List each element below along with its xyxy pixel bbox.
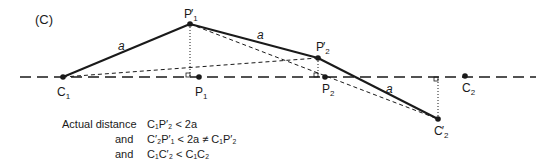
point-c2prime bbox=[435, 116, 441, 122]
label-p1: P1 bbox=[195, 85, 208, 101]
segment-p2prime-c2prime bbox=[318, 58, 438, 119]
equation-row-1-lead: Actual distance bbox=[62, 118, 137, 130]
label-c1: C1 bbox=[57, 85, 71, 101]
point-p2prime bbox=[315, 55, 321, 61]
segment-label-2: a bbox=[257, 28, 264, 42]
point-c2 bbox=[462, 73, 468, 79]
label-p1prime: P′1 bbox=[184, 7, 198, 23]
equation-row-1-expr: C₁P′₂ < 2a bbox=[147, 118, 197, 130]
point-p1prime bbox=[187, 21, 193, 27]
equation-row-3-lead: and bbox=[115, 148, 133, 160]
panel-label: (C) bbox=[35, 12, 53, 27]
label-c2: C2 bbox=[462, 81, 476, 97]
point-c1 bbox=[60, 74, 66, 80]
label-c2prime: C′2 bbox=[434, 124, 449, 140]
equation-row-2-expr: C′₂P′₁ < 2a ≠ C₁P′₂ bbox=[147, 133, 237, 145]
segment-label-1: a bbox=[118, 39, 125, 53]
equation-row-2-lead: and bbox=[115, 133, 133, 145]
point-p2 bbox=[322, 74, 328, 80]
segment-label-3: a bbox=[386, 82, 393, 96]
label-p2: P2 bbox=[322, 82, 335, 98]
point-p1 bbox=[196, 74, 202, 80]
segment-p1prime-p2prime bbox=[190, 24, 318, 58]
label-p2prime: P′2 bbox=[316, 40, 330, 56]
equation-row-3-expr: C₁C′₂ < C₁C₂ bbox=[147, 148, 209, 160]
right-angle-marker-1 bbox=[186, 73, 190, 77]
diagram-canvas: (C) a a a C1 P′1 P1 P′2 P2 C′2 C2 bbox=[0, 0, 554, 167]
dashed-p1prime-to-c2prime bbox=[190, 24, 438, 119]
